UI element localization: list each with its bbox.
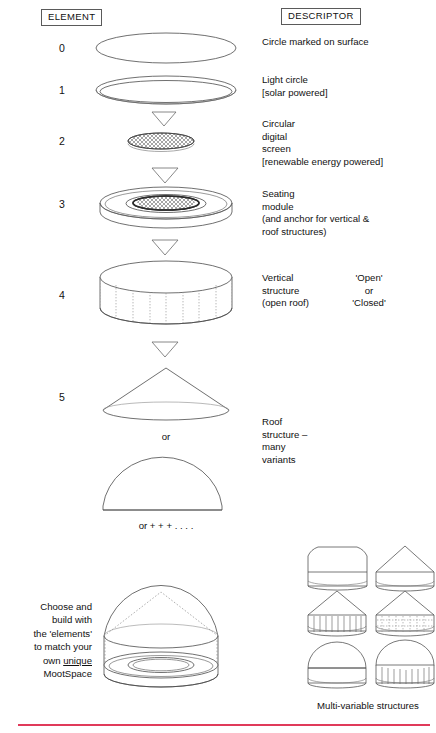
caption-line-5-prefix: own [43, 655, 63, 666]
variant-dome-roof-plain-wall [308, 642, 366, 688]
variant-conical-roof-plain-wall [376, 546, 434, 591]
diagram-page: ELEMENT DESCRIPTOR 0 1 2 3 4 5 Circle ma… [0, 0, 436, 733]
element-number-1: 1 [52, 85, 72, 96]
element-column-header: ELEMENT [41, 9, 102, 26]
caption-line-2: build with [52, 614, 92, 625]
variant-conical-roof-dashed-wall [376, 591, 434, 636]
element-0-shape [96, 33, 236, 63]
element-number-4: 4 [52, 290, 72, 301]
build-instruction-caption: Choose and build with the 'elements' to … [6, 600, 92, 680]
element-5-dome-roof [103, 457, 222, 510]
descriptor-text-4: Vertical structure (open roof) [262, 272, 332, 310]
variant-rounded-roof-low-wall [308, 547, 367, 590]
descriptor-text-2: Circular digital screen [renewable energ… [262, 118, 434, 168]
element-number-3: 3 [52, 199, 72, 210]
bottom-red-rule [18, 724, 430, 726]
element-4-shape [100, 261, 232, 325]
roof-or-plus-label: or + + + . . . . [106, 521, 226, 531]
element-3-shape [100, 187, 232, 228]
flow-arrow-1 [152, 112, 176, 126]
element-1-shape [96, 76, 236, 104]
variant-dome-roof-ribbed-wall [376, 640, 434, 688]
descriptor-text-5: Roof structure – many variants [262, 416, 382, 466]
caption-line-5-underlined: unique [63, 655, 92, 666]
caption-line-4: to match your [34, 641, 92, 652]
descriptor-text-1: Light circle [solar powered] [262, 74, 432, 99]
descriptor-text-3: Seating module (and anchor for vertical … [262, 188, 434, 238]
caption-line-1: Choose and [40, 601, 92, 612]
element-number-2: 2 [52, 136, 72, 147]
composite-structure [104, 585, 218, 687]
variant-conical-roof-ribbed-wall [308, 591, 366, 636]
caption-line-6: MootSpace [43, 668, 92, 679]
element-5-cone-roof [103, 368, 229, 420]
flow-arrow-2 [152, 168, 178, 183]
multivariable-structures-caption: Multi-variable structures [300, 700, 436, 711]
element-number-0: 0 [52, 43, 72, 54]
descriptor-text-0: Circle marked on surface [262, 36, 432, 49]
flow-arrow-3 [152, 240, 178, 255]
element-2-shape [126, 131, 198, 153]
descriptor-column-header: DESCRIPTOR [281, 8, 361, 25]
descriptor-text-4-options: 'Open' or 'Closed' [336, 272, 402, 310]
flow-arrow-4 [152, 342, 178, 357]
roof-or-label: or [106, 432, 226, 442]
element-number-5: 5 [52, 392, 72, 403]
caption-line-3: the 'elements' [33, 628, 92, 639]
